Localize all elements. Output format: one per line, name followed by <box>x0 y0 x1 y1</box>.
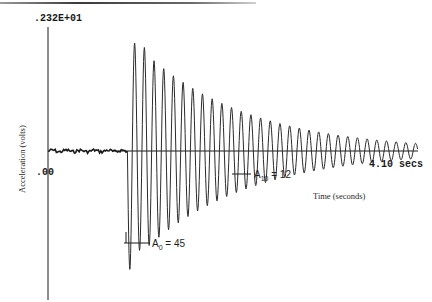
damped-oscillation-chart: .232E+01 .00 Acceleration (volts) 4.10 s… <box>0 0 432 302</box>
annotation-a0: A0 = 45 <box>124 232 186 251</box>
svg-text:A10 = 12: A10 = 12 <box>254 169 291 182</box>
y-axis-title: Acceleration (volts) <box>17 125 27 193</box>
x-end-label: 4.10 secs <box>369 159 423 170</box>
svg-text:A0 = 45: A0 = 45 <box>152 238 186 251</box>
a0-value: = 45 <box>163 238 186 249</box>
a10-value: = 12 <box>268 169 291 180</box>
annotation-a10: A10 = 12 <box>232 169 291 182</box>
y-zero-label: .00 <box>36 167 54 178</box>
x-axis-title: Time (seconds) <box>313 191 366 201</box>
y-max-label: .232E+01 <box>34 13 82 24</box>
baseline-noise-trace <box>48 149 127 153</box>
acceleration-trace <box>127 43 417 269</box>
top-rule <box>0 2 256 4</box>
a10-subscript: 10 <box>261 175 269 182</box>
